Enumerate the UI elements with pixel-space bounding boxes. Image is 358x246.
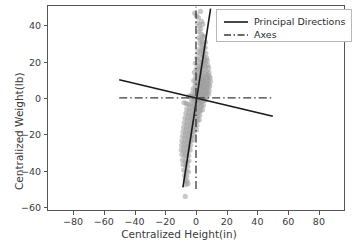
scatter-point — [206, 65, 211, 70]
scatter-point — [186, 169, 191, 174]
scatter-point — [185, 181, 190, 186]
x-tick-mark — [165, 211, 166, 215]
legend-label-principal-directions: Principal Directions — [254, 16, 345, 27]
y-tick-mark — [44, 25, 48, 26]
scatter-point — [183, 194, 188, 199]
legend-solid-line-icon — [223, 17, 249, 27]
scatter-point — [194, 127, 199, 132]
scatter-point — [200, 22, 205, 27]
y-tick-label: −60 — [5, 202, 41, 213]
y-tick-mark — [44, 62, 48, 63]
scatter-point — [201, 103, 206, 108]
legend-item-axes: Axes — [223, 28, 277, 41]
scatter-point — [206, 92, 211, 97]
y-tick-label: 40 — [5, 20, 41, 31]
scatter-point — [184, 101, 189, 106]
scatter-plot-figure: −80−60−40−20020406080−60−40−2002040 Cent… — [0, 0, 358, 246]
y-tick-label: 20 — [5, 56, 41, 67]
chart-legend: Principal Directions Axes — [216, 9, 352, 42]
x-tick-mark — [135, 211, 136, 215]
scatter-point — [198, 9, 203, 14]
x-tick-label: −20 — [155, 216, 175, 227]
scatter-point — [194, 123, 199, 128]
legend-label-axes: Axes — [254, 29, 277, 40]
x-tick-label: 80 — [313, 216, 325, 227]
x-tick-label: −60 — [94, 216, 114, 227]
scatter-point — [197, 113, 202, 118]
x-tick-label: 20 — [221, 216, 233, 227]
y-tick-mark — [44, 134, 48, 135]
y-axis-label: Centralized Weight(lb) — [13, 73, 25, 190]
x-tick-mark — [319, 211, 320, 215]
x-tick-mark — [288, 211, 289, 215]
scatter-point — [207, 84, 212, 89]
scatter-point — [208, 79, 213, 84]
x-tick-mark — [73, 211, 74, 215]
x-tick-label: −80 — [63, 216, 83, 227]
x-tick-mark — [227, 211, 228, 215]
x-tick-label: 0 — [193, 216, 199, 227]
x-tick-label: 60 — [282, 216, 294, 227]
legend-item-principal-directions: Principal Directions — [223, 15, 345, 28]
x-tick-mark — [196, 211, 197, 215]
y-tick-mark — [44, 98, 48, 99]
x-tick-label: −40 — [125, 216, 145, 227]
x-tick-label: 40 — [251, 216, 263, 227]
scatter-point — [197, 117, 202, 122]
scatter-point — [205, 58, 210, 63]
y-tick-mark — [44, 171, 48, 172]
y-tick-mark — [44, 207, 48, 208]
x-tick-mark — [104, 211, 105, 215]
x-tick-mark — [257, 211, 258, 215]
legend-dashdot-line-icon — [223, 30, 249, 40]
x-axis-label: Centralized Height(in) — [0, 228, 358, 240]
scatter-point — [200, 107, 205, 112]
